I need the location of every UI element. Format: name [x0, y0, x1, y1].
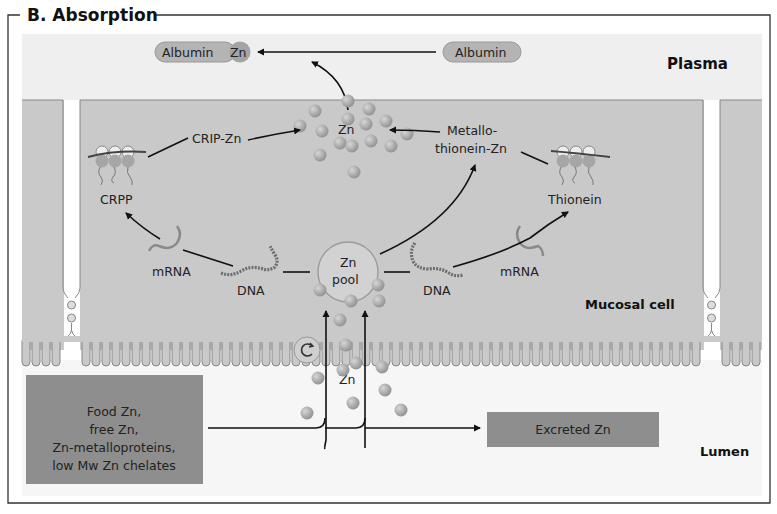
crpp-label: CRPP [100, 192, 133, 207]
albumin-label: Albumin [455, 45, 506, 60]
zn-pool-label-2: pool [332, 272, 359, 287]
food-zn-line-3: Zn-metalloproteins, [53, 440, 176, 455]
albumin-zn-complex: Albumin Zn [155, 42, 251, 63]
metallothionein-zn-label-2: thionein-Zn [435, 141, 507, 156]
lumen-label: Lumen [700, 444, 749, 459]
mucosal-cells [22, 100, 762, 350]
zn-pool: Zn pool [318, 242, 378, 302]
albumin-zn-zn-label: Zn [230, 45, 247, 60]
food-zn-box: Food Zn, free Zn, Zn-metalloproteins, lo… [26, 375, 203, 484]
plasma-region [22, 34, 762, 100]
endocytic-vesicle-icon [294, 337, 320, 363]
mrna-left-label: mRNA [152, 264, 191, 279]
crip-zn-label: CRIP-Zn [192, 131, 241, 146]
food-zn-line-4: low Mw Zn chelates [52, 458, 175, 473]
albumin-zn-albumin-label: Albumin [162, 45, 213, 60]
plasma-label: Plasma [667, 55, 728, 73]
mrna-right-label: mRNA [500, 264, 539, 279]
food-zn-line-2: free Zn, [89, 422, 138, 437]
dna-left-label: DNA [237, 283, 265, 298]
zn-cluster-label: Zn [338, 122, 355, 137]
metallothionein-zn-label-1: Metallo- [447, 123, 497, 138]
food-zn-line-1: Food Zn, [87, 404, 141, 419]
zinc-absorption-diagram: B. Absorption Plasma Mucosal cell Lumen … [0, 0, 777, 514]
albumin-protein: Albumin [443, 42, 521, 62]
thionein-label: Thionein [547, 192, 602, 207]
figure-title: B. Absorption [27, 5, 158, 25]
zn-pool-label-1: Zn [340, 255, 357, 270]
excreted-zn-box: Excreted Zn [487, 412, 659, 447]
mucosal-cell-label: Mucosal cell [585, 297, 675, 312]
excreted-zn-label: Excreted Zn [535, 422, 611, 437]
dna-right-label: DNA [423, 283, 451, 298]
